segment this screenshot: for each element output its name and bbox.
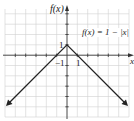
y-axis-arrow-icon xyxy=(65,5,69,11)
y-tick-neg1: −1 xyxy=(55,59,65,68)
axes xyxy=(3,5,134,119)
y-axis-label: f(x) xyxy=(50,4,64,14)
x-axis-label: x xyxy=(130,57,134,66)
function-label: f(x) = 1 − |x| xyxy=(82,28,129,37)
graph-canvas xyxy=(0,0,134,121)
x-tick-1: 1 xyxy=(76,59,81,68)
y-tick-1: 1 xyxy=(59,41,64,50)
